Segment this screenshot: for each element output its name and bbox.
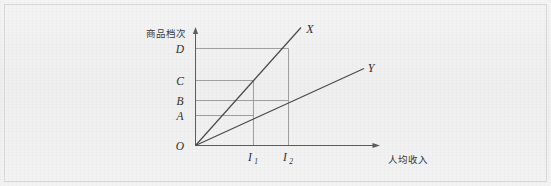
scanned-figure-page: 商品档次 人均收入 D C B A O I 1 I 2 X Y <box>0 0 551 186</box>
x-tick-label-i1: I 1 <box>247 151 258 166</box>
y-axis-arrow-icon <box>193 27 198 34</box>
x-tick-label-i2: I 2 <box>282 151 293 166</box>
series-label-y: Y <box>368 61 376 75</box>
origin-label: O <box>176 140 185 152</box>
chart-figure: 商品档次 人均收入 D C B A O I 1 I 2 X Y <box>0 0 551 186</box>
y-tick-label-d: D <box>175 43 185 55</box>
x-tick-label-i1-base: I <box>247 151 253 163</box>
x-tick-label-i2-sub: 2 <box>289 157 293 166</box>
y-tick-label-b: B <box>176 95 183 107</box>
y-tick-label-a: A <box>175 110 184 122</box>
x-axis-label: 人均收入 <box>388 154 428 165</box>
series-line-y <box>196 69 365 146</box>
x-tick-label-i2-base: I <box>282 151 288 163</box>
x-tick-label-i1-sub: 1 <box>254 157 258 166</box>
y-tick-label-c: C <box>176 75 184 87</box>
x-axis-arrow-icon <box>373 143 381 148</box>
series-line-x <box>196 28 302 146</box>
y-axis-label: 商品档次 <box>146 28 186 39</box>
series-label-x: X <box>305 22 314 36</box>
